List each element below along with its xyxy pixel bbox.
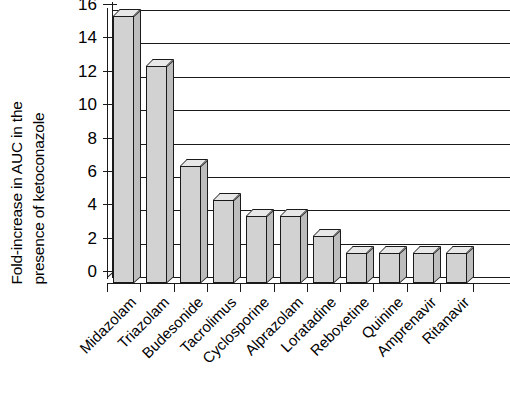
bar-side-face [367,247,374,283]
y-axis-tick-label: 8 [88,130,97,147]
y-axis-tick-label: 2 [88,230,97,247]
bar-amprenavir [413,253,434,283]
bar-side-face [301,210,308,283]
bar-front-face [313,236,334,283]
bar-side-face [467,247,474,283]
y-axis-tick-label: 0 [88,263,97,280]
chart-plot-area: 0246810121416 [107,0,510,290]
x-axis-tick [240,283,241,292]
bar-tacrolimus [213,200,234,283]
bar-midazolam [113,16,134,283]
bar-side-face [434,247,441,283]
y-axis-tick-label: 4 [88,196,97,213]
bar-loratadine [313,236,334,283]
bar-front-face [213,200,234,283]
bar-side-face [134,10,141,283]
x-axis-tick [407,283,408,292]
bar-front-face [246,216,267,283]
bar-side-face [167,60,174,283]
x-axis-tick [373,283,374,292]
bar-reboxetine [346,253,367,283]
y-axis-tick-label: 14 [78,29,97,46]
bar-side-face [201,160,208,283]
bar-front-face [113,16,134,283]
x-axis-category-labels: MidazolamTriazolamBudesonideTacrolimusCy… [0,292,510,412]
bar-cyclosporine [246,216,267,283]
x-axis-tick [107,283,108,292]
bar-front-face [413,253,434,283]
bar-front-face [180,166,201,283]
y-axis-title: Fold-increase in AUC in the presence of … [0,0,62,290]
bar-side-face [400,247,407,283]
y-axis-tick-label: 6 [88,163,97,180]
bar-front-face [346,253,367,283]
x-axis-tick [274,283,275,292]
bar-front-face [280,216,301,283]
bar-ritanavir [446,253,467,283]
bar-side-face [234,193,241,283]
bar-side-face [267,210,274,283]
y-axis-tick-label: 12 [78,63,97,80]
bar-quinine [379,253,400,283]
bar-front-face [379,253,400,283]
bar-series [107,0,510,290]
x-axis-tick [140,283,141,292]
bar-triazolam [146,66,167,283]
x-axis-tick [340,283,341,292]
x-axis-tick [207,283,208,292]
x-axis-tick [307,283,308,292]
bar-alprazolam [280,216,301,283]
bar-side-face [334,230,341,283]
y-axis-tick-label: 16 [78,0,97,13]
x-axis-tick [473,283,474,292]
y-axis-tick-label: 10 [78,96,97,113]
y-axis-title-line-1: Fold-increase in AUC in the [9,101,25,284]
x-axis-tick [440,283,441,292]
x-axis-tick [174,283,175,292]
bar-front-face [446,253,467,283]
y-axis-title-line-2: presence of ketoconazole [31,112,47,284]
bar-front-face [146,66,167,283]
bar-budesonide [180,166,201,283]
